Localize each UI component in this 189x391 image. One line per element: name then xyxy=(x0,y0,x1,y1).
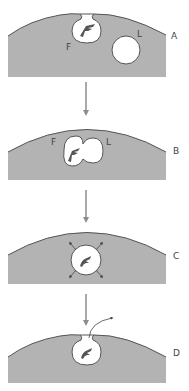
panel-d: D xyxy=(8,318,180,383)
lysosome xyxy=(112,36,140,64)
panel-label-c: C xyxy=(173,251,179,261)
diagram-canvas: F L A F L B C D xyxy=(0,0,189,391)
label-l: L xyxy=(137,29,142,39)
label-f: F xyxy=(51,137,56,147)
panel-a: F L A xyxy=(8,14,178,77)
panel-label-d: D xyxy=(173,348,180,358)
label-l: L xyxy=(106,137,111,147)
diagram: F L A F L B C D xyxy=(0,0,189,391)
panel-c: C xyxy=(8,233,179,285)
label-f: F xyxy=(66,42,71,52)
panel-b: F L B xyxy=(8,130,179,181)
panel-label-a: A xyxy=(171,31,178,41)
panel-label-b: B xyxy=(173,146,179,156)
